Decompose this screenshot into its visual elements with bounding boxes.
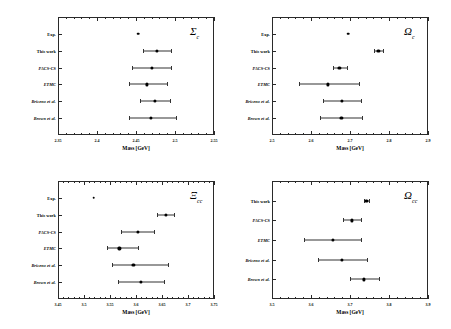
x-tick (366, 181, 367, 183)
x-tick (311, 181, 312, 185)
x-tick (397, 297, 398, 299)
error-bar-cap (361, 238, 362, 242)
x-tick (366, 297, 367, 299)
x-tick (311, 295, 312, 299)
y-tick (272, 279, 276, 280)
y-axis-label: Briceno et al. (220, 257, 270, 262)
error-bar-cap (361, 218, 362, 222)
error-bar-cap (304, 238, 305, 242)
x-tick (428, 295, 429, 299)
x-tick (381, 181, 382, 183)
x-tick (350, 295, 351, 299)
figure-canvas: Σc2.352.42.452.52.55Mass [GeV]Exp.This w… (0, 0, 451, 329)
error-bar-cap (379, 277, 380, 281)
x-axis-title: Mass [GeV] (336, 309, 363, 315)
x-tick-label: 3.5 (270, 302, 275, 307)
x-tick (381, 297, 382, 299)
x-tick-label: 3.9 (426, 302, 431, 307)
x-tick (420, 297, 421, 299)
x-tick (327, 181, 328, 183)
y-axis-label: Brown et al. (220, 277, 270, 282)
x-tick (350, 181, 351, 185)
x-tick-label: 3.6 (309, 302, 314, 307)
x-tick (272, 181, 273, 185)
x-tick (358, 297, 359, 299)
x-tick (373, 297, 374, 299)
error-bar-cap (367, 258, 368, 262)
x-tick (303, 181, 304, 183)
x-tick (412, 297, 413, 299)
panel-label-subscript: cc (412, 198, 417, 204)
panel-omega-cc: Ωcc3.53.63.73.83.9Mass [GeV]This workPAC… (0, 0, 451, 329)
x-tick (303, 297, 304, 299)
x-tick-label: 3.8 (387, 302, 392, 307)
x-tick (319, 181, 320, 183)
y-tick (272, 260, 276, 261)
x-tick (428, 181, 429, 185)
y-tick (272, 240, 276, 241)
x-tick (327, 297, 328, 299)
x-tick (420, 181, 421, 183)
x-tick (288, 297, 289, 299)
x-tick (373, 181, 374, 183)
x-tick (319, 297, 320, 299)
x-tick (358, 181, 359, 183)
x-tick (342, 181, 343, 183)
x-tick (405, 297, 406, 299)
x-tick (389, 181, 390, 185)
y-axis-label: This work (220, 198, 270, 203)
y-tick (272, 220, 276, 221)
x-tick (280, 181, 281, 183)
error-bar-cap (318, 258, 319, 262)
x-tick (334, 181, 335, 183)
x-tick (334, 297, 335, 299)
x-tick (412, 181, 413, 183)
x-tick (288, 181, 289, 183)
x-tick (272, 295, 273, 299)
x-tick (295, 297, 296, 299)
x-tick (295, 181, 296, 183)
panel-label-omega-cc: Ωcc (404, 186, 417, 204)
x-tick-label: 3.7 (348, 302, 353, 307)
error-bar-cap (369, 199, 370, 203)
x-tick (342, 297, 343, 299)
x-tick (397, 181, 398, 183)
panel-label-symbol: Ω (404, 189, 412, 201)
x-tick (389, 295, 390, 299)
y-tick (272, 201, 276, 202)
y-axis-label: PACS-CS (220, 218, 270, 223)
y-axis-label: ETMC (220, 238, 270, 243)
x-tick (405, 181, 406, 183)
error-bar-cap (343, 218, 344, 222)
x-tick (280, 297, 281, 299)
error-bar-cap (350, 277, 351, 281)
